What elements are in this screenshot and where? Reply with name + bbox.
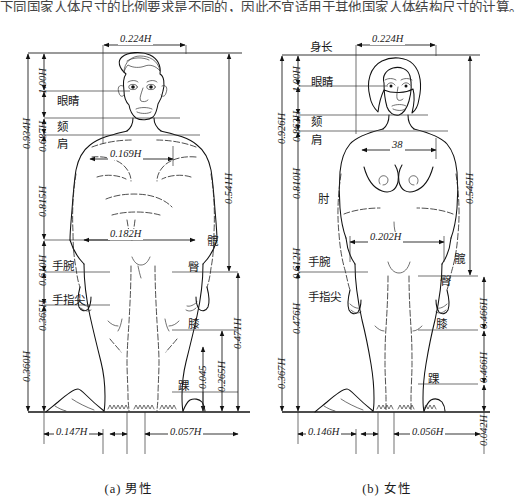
male-left-dim-0: 1.00H (38, 68, 49, 94)
female-bust-width-label: 38 (390, 140, 405, 151)
male-left-dim-1: 0.687H (38, 121, 49, 152)
female-left-dim-3: 0.612H (292, 248, 303, 279)
male-label-buttock: 臀 (188, 262, 199, 274)
male-label-ankle: 踝 (178, 381, 189, 393)
male-label-fingertip: 手指尖 (52, 295, 85, 307)
male-left-dim-3: 0.610H (38, 255, 49, 286)
female-label-elbow: 肘 (318, 194, 329, 206)
female-label-buttock: 臀 (440, 276, 451, 288)
female-left-dim-1: 0.862H (292, 111, 303, 142)
male-caption: (a) 男性 (0, 478, 258, 497)
female-outer-dim-1: 0.367H (277, 358, 288, 389)
male-right-dim-2: 0.265H (217, 361, 228, 392)
male-top-width-label: 0.224H (118, 34, 153, 45)
female-label-height: 身长 (310, 42, 332, 54)
male-right-dim-3: 0.045 (198, 365, 209, 389)
male-left-dim-2: 0.815H (38, 186, 49, 217)
male-right-dim-0: 0.541H (224, 173, 235, 204)
female-label-shoulder: 肩 (311, 135, 322, 147)
female-outer-dim-0: 0.926H (277, 113, 288, 144)
male-base-dim-1: 0.057H (168, 427, 203, 438)
female-left-dim-4: 0.476H (292, 303, 303, 334)
female-base-dim-1: 0.056H (410, 427, 445, 438)
male-label-hip-joint: 髋 (207, 236, 218, 248)
female-label-chin: 颏 (311, 117, 322, 129)
male-label-wrist: 手腕 (52, 261, 74, 273)
female-base-dim-0: 0.146H (306, 427, 341, 438)
female-right-dim-3: 0.042H (479, 415, 490, 446)
male-shoulder-width-label: 0.169H (108, 149, 143, 160)
female-right-dim-0: 0.545H (465, 173, 476, 204)
female-left-dim-2: 0.810H (292, 168, 303, 199)
female-reference-lines (298, 45, 478, 454)
female-label-knee: 膝 (436, 319, 447, 331)
figure-female: 0.224H 身长 0.926H 0.367H 1.00H 0.862H 0.8… (258, 14, 516, 501)
female-left-dim-0: 1.00H (292, 66, 303, 92)
female-right-dim-2: 0.466H (479, 352, 490, 383)
female-label-fingertip: 手指尖 (308, 292, 341, 304)
female-hip-width-label: 0.202H (368, 232, 403, 243)
male-right-dim-1: 0.471H (233, 318, 244, 349)
male-label-shoulder: 肩 (57, 139, 68, 151)
female-right-dim-1: 0.466H (479, 298, 490, 329)
male-label-knee: 膝 (188, 319, 199, 331)
figure-male: 0.224H 0.934H 0.360H 1.00H 0.687H 0.815H… (0, 14, 258, 501)
female-label-eye: 眼睛 (311, 77, 333, 89)
male-hip-width-label: 0.182H (108, 229, 143, 240)
female-label-wrist: 手腕 (308, 257, 330, 269)
page-top-cut-text: 下同国家人体尺寸的比例要求是不同的，因此不宜适用于其他国家人体结构尺寸的计算。 (0, 0, 516, 12)
female-label-hip-joint: 髋 (454, 254, 465, 266)
male-label-eye: 眼睛 (57, 96, 79, 108)
male-outer-dim-0: 0.934H (22, 118, 33, 149)
female-caption: (b) 女性 (258, 478, 516, 497)
male-base-dim-0: 0.147H (54, 427, 89, 438)
female-label-ankle: 踝 (428, 374, 439, 386)
male-outer-dim-1: 0.360H (22, 351, 33, 382)
male-left-dim-4: 0.365H (38, 300, 49, 331)
male-label-chin: 颏 (57, 122, 68, 134)
female-top-width-label: 0.224H (370, 34, 405, 45)
